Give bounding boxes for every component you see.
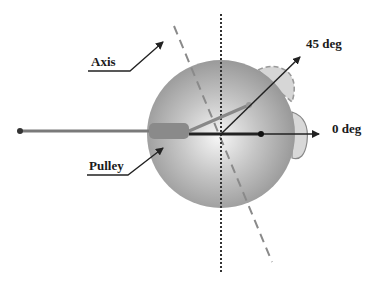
pulley-axis-diagram: Axis Pulley 45 deg 0 deg: [0, 0, 382, 282]
zero-deg-dot: [258, 131, 264, 137]
rod-end-dot: [17, 128, 23, 134]
pulley-label: Pulley: [89, 158, 124, 173]
zero-deg-label: 0 deg: [332, 121, 362, 136]
axis-label: Axis: [91, 54, 116, 69]
pulley-block: [149, 123, 189, 139]
forty-five-deg-label: 45 deg: [306, 36, 342, 51]
